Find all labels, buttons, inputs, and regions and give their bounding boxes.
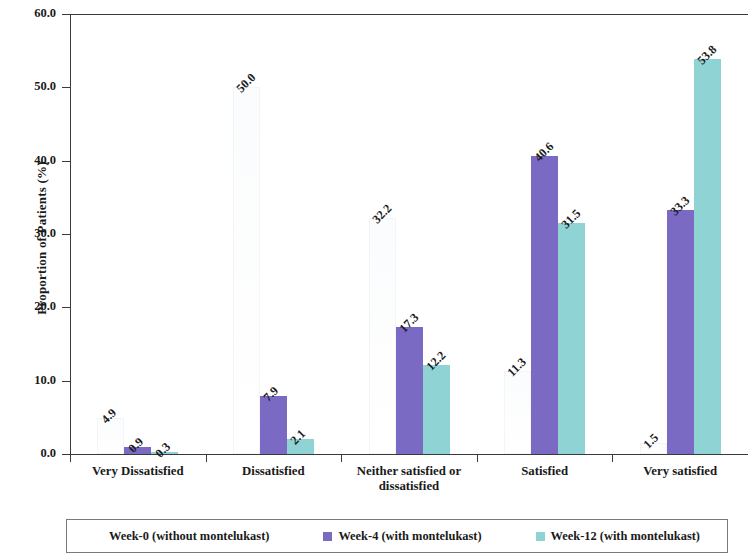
bar bbox=[233, 87, 260, 454]
x-axis-tick bbox=[477, 454, 478, 462]
y-axis-tick bbox=[62, 161, 70, 162]
bar bbox=[423, 365, 450, 454]
y-axis-tick bbox=[62, 14, 70, 15]
legend-label: Week-12 (with montelukast) bbox=[551, 529, 700, 544]
legend-item: Week-0 (without montelukast) bbox=[94, 529, 269, 544]
x-axis-category-label: Very satisfied bbox=[612, 464, 748, 479]
y-axis-tick-label: 60.0 bbox=[0, 7, 56, 20]
legend-label: Week-0 (without montelukast) bbox=[109, 529, 269, 544]
x-axis-tick bbox=[70, 454, 71, 462]
legend-label: Week-4 (with montelukast) bbox=[338, 529, 481, 544]
y-axis-tick bbox=[62, 234, 70, 235]
y-axis-tick bbox=[62, 454, 70, 455]
bar bbox=[694, 59, 721, 454]
x-axis-category-label: Very Dissatisfied bbox=[70, 464, 206, 479]
x-axis-category-label: Satisfied bbox=[477, 464, 613, 479]
y-axis-tick-label: 30.0 bbox=[0, 227, 56, 240]
y-axis-tick-label: 40.0 bbox=[0, 154, 56, 167]
legend: Week-0 (without montelukast)Week-4 (with… bbox=[66, 519, 728, 553]
legend-swatch-icon bbox=[536, 532, 545, 541]
x-axis-tick bbox=[612, 454, 613, 462]
y-axis-tick bbox=[62, 307, 70, 308]
legend-swatch-icon bbox=[94, 532, 103, 541]
bar bbox=[531, 156, 558, 454]
y-axis-tick-label: 20.0 bbox=[0, 300, 56, 313]
y-axis-tick bbox=[62, 87, 70, 88]
legend-item: Week-12 (with montelukast) bbox=[536, 529, 700, 544]
legend-item: Week-4 (with montelukast) bbox=[323, 529, 481, 544]
bar bbox=[504, 371, 531, 454]
x-axis-category-label: Dissatisfied bbox=[206, 464, 342, 479]
bar bbox=[558, 223, 585, 454]
bar-chart: Proportion of Patients (%) 0.010.020.030… bbox=[0, 0, 748, 558]
bar bbox=[369, 218, 396, 454]
x-axis-line bbox=[70, 454, 748, 455]
x-axis-tick bbox=[341, 454, 342, 462]
x-axis-tick bbox=[206, 454, 207, 462]
x-axis-category-label: Neither satisfied or dissatisfied bbox=[341, 464, 477, 494]
y-axis-tick-label: 0.0 bbox=[0, 447, 56, 460]
legend-items: Week-0 (without montelukast)Week-4 (with… bbox=[67, 520, 727, 552]
bar bbox=[667, 210, 694, 454]
y-axis-tick bbox=[62, 381, 70, 382]
legend-swatch-icon bbox=[323, 532, 332, 541]
y-axis-tick-label: 50.0 bbox=[0, 80, 56, 93]
bar bbox=[396, 327, 423, 454]
y-axis-tick-label: 10.0 bbox=[0, 374, 56, 387]
bars-layer bbox=[70, 14, 748, 454]
bar bbox=[260, 396, 287, 454]
